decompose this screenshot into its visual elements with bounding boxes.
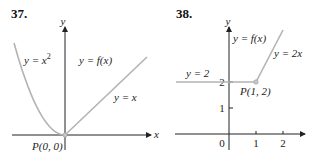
graph-37-label-parabola-exponent: 2	[47, 52, 51, 61]
graph-38-label-horizontal: y = 2	[185, 67, 210, 79]
graph-37-x-axis-label: x	[153, 128, 159, 140]
graph-37-y-axis-label: y	[60, 15, 66, 27]
graph-37-label-parabola-base: y = x	[23, 54, 47, 66]
graph-38-ytick-label: 1	[219, 102, 225, 114]
graph-38-label-point: P(1, 2)	[239, 85, 271, 98]
graph-38-xtick-label: 2	[280, 137, 286, 149]
graph-37: 37. x y y = x2 y = f(x) y = x P(0, 0)	[11, 6, 159, 153]
graph-37-label-parabola: y = x2	[23, 52, 51, 66]
graph-38: 38. y 01212 y = f(x) y = 2x y = 2 P(1, 2…	[175, 6, 305, 150]
graph-38-label-slope: y = 2x	[273, 47, 302, 59]
graph-38-title: 38.	[176, 6, 192, 21]
figure: 37. x y y = x2 y = f(x) y = x P(0, 0) 38…	[0, 0, 317, 155]
graph-37-label-point: P(0, 0)	[31, 140, 63, 153]
graph-38-xtick-label: 0	[219, 137, 225, 149]
graph-38-label-f: y = f(x)	[232, 32, 266, 45]
graph-37-label-line: y = x	[113, 91, 137, 103]
graph-37-label-f: y = f(x)	[78, 54, 112, 67]
graph-38-xtick-label: 1	[253, 137, 259, 149]
graph-37-title: 37.	[11, 6, 27, 21]
graph-38-point-p	[254, 80, 258, 84]
graph-37-point-p	[63, 133, 67, 137]
graph-38-y-axis-label: y	[225, 15, 231, 27]
